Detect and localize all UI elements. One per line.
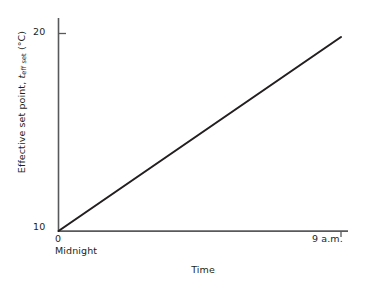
x-tick-label-0: 0 (55, 233, 61, 244)
chart-figure: Effective set point, teff set (°C) Time … (0, 0, 377, 293)
y-axis-title-subscript: eff set (20, 53, 28, 75)
y-axis-title-symbol: t (16, 75, 27, 79)
x-tick-label-9am: 9 a.m. (312, 233, 343, 244)
y-tick-label-10: 10 (33, 221, 45, 232)
y-axis-title-lead: Effective set point, (16, 79, 27, 174)
x-axis-title: Time (58, 264, 348, 275)
y-tick-label-20: 20 (33, 26, 45, 37)
y-axis-title: Effective set point, teff set (°C) (14, 0, 30, 222)
x-tick-sublabel-midnight: Midnight (55, 245, 97, 256)
data-line-effective-set-point (59, 37, 342, 231)
y-axis-title-unit: (°C) (16, 31, 27, 53)
